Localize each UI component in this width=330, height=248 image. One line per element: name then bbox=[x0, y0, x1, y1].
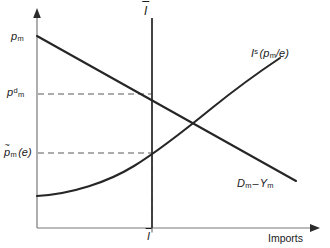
y-label-price-world-arg: (e) bbox=[18, 146, 31, 158]
x-axis-label: Imports bbox=[268, 233, 303, 244]
y-label-price-world-base: p bbox=[4, 146, 10, 158]
supply-curve bbox=[37, 58, 280, 196]
y-label-price-max-sub: m bbox=[17, 34, 23, 43]
supply-curve-arg-rest: /e bbox=[276, 47, 285, 59]
dashed-guides-group bbox=[38, 94, 152, 227]
y-label-price-domestic-sup: d bbox=[13, 86, 17, 95]
overbar-accent-group: I bbox=[144, 5, 147, 17]
y-label-price-max: pm bbox=[11, 31, 24, 43]
import-quota-diagram: pm pdm ~pm(e) I I Is(pm/e) Dm–Ym Imports bbox=[0, 0, 330, 248]
demand-curve-label-second-base: Y bbox=[260, 177, 267, 189]
y-label-price-world-sub: m bbox=[10, 150, 16, 159]
quota-line-label: I bbox=[144, 5, 147, 17]
x-axis-tick-label-base: I bbox=[147, 230, 150, 242]
y-label-price-domestic: pdm bbox=[7, 87, 24, 99]
overbar-accent-group-tick: I bbox=[147, 231, 150, 242]
tilde-accent-group: ~p bbox=[4, 147, 10, 158]
supply-curve-label-sup: s bbox=[254, 47, 258, 56]
demand-curve-label: Dm–Ym bbox=[237, 178, 274, 190]
x-axis-tick-label-ibar: I bbox=[147, 231, 150, 242]
supply-curve-label: Is(pm/e) bbox=[251, 48, 289, 60]
supply-curve-arg-base: p bbox=[263, 47, 269, 59]
demand-curve-label-first-base: D bbox=[237, 177, 245, 189]
demand-curve-label-second-sub: m bbox=[267, 181, 273, 190]
y-label-price-world: ~pm(e) bbox=[4, 147, 32, 159]
y-axis-arrowhead bbox=[33, 8, 41, 18]
axes-group bbox=[33, 8, 320, 233]
y-label-price-domestic-sub: m bbox=[18, 90, 24, 99]
quota-line-label-base: I bbox=[144, 4, 147, 18]
demand-curve-label-operator: – bbox=[253, 177, 259, 189]
x-axis-arrowhead bbox=[310, 224, 320, 232]
demand-curve-label-first-sub: m bbox=[245, 181, 251, 190]
diagram-canvas bbox=[0, 0, 330, 248]
